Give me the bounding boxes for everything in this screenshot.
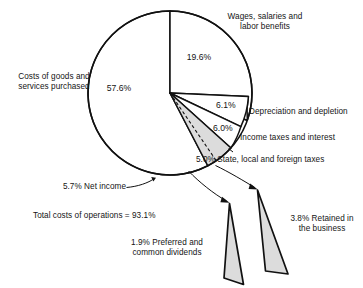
label-costs-line2: services purchased [2, 82, 106, 92]
leader-to-dividends [189, 171, 227, 201]
label-costs-line1: Costs of goods and [2, 72, 106, 82]
value-costs-of-goods: 57.6% [96, 83, 142, 93]
label-depreciation: Depreciation and depletion [249, 107, 363, 117]
label-wages-line2: labor benefits [199, 22, 331, 32]
label-income-taxes: Income taxes and interest [240, 133, 360, 143]
label-state-taxes: 5.0% State, local and foreign taxes [196, 155, 363, 165]
label-retained-line2: the business [282, 224, 362, 234]
value-wages: 19.6% [176, 52, 222, 62]
leader-net-income-arrow [151, 177, 156, 182]
label-retained-line1: 3.8% Retained in [282, 214, 362, 224]
leader-net-income [127, 179, 155, 188]
callout-wedge-dividends[interactable] [224, 204, 244, 285]
label-dividends-line1: 1.9% Preferred and [112, 238, 222, 248]
leader-to-retained-arrow [249, 184, 258, 190]
label-wages-line1: Wages, salaries and [199, 12, 331, 22]
label-total-costs: Total costs of operations = 93.1% [33, 211, 213, 221]
callout-wedges [224, 190, 288, 285]
pie-chart-figure: Wages, salaries and labor benefits 19.6%… [0, 0, 363, 288]
label-dividends-line2: common dividends [112, 248, 222, 258]
leader-to-retained [216, 166, 255, 188]
leader-to-dividends-arrow [220, 197, 229, 203]
label-net-income: 5.7% Net income [28, 182, 126, 192]
value-income-taxes: 6.0% [213, 123, 243, 133]
value-depreciation: 6.1% [216, 100, 246, 110]
